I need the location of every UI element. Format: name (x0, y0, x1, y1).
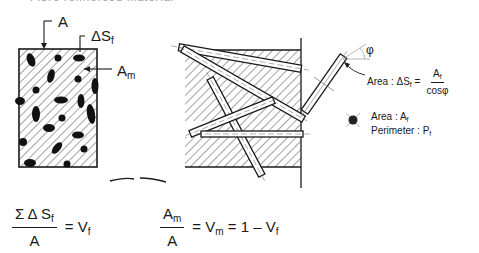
label-matrix-area: Am (117, 63, 135, 81)
inclined-fiber (291, 44, 370, 124)
break-line (110, 178, 166, 182)
label-fiber-area: ΔSf (91, 28, 114, 46)
fiber-volume-fraction-equation: Σ Δ Sf A = Vf (12, 205, 90, 249)
fiber-cross-section-icon (346, 113, 360, 127)
angle-phi: φ (366, 44, 374, 56)
label-total-area: A (58, 14, 68, 29)
cross-section-area: Area : Af (371, 112, 409, 123)
matrix-volume-fraction-equation: Am A = Vm = 1 – Vf (160, 205, 279, 249)
fiber-pullout-view (170, 38, 310, 188)
perimeter-label: Perimeter : Pf (371, 126, 431, 137)
fiber-area-formula: Area : ΔSf = Af cosφ (367, 68, 448, 96)
